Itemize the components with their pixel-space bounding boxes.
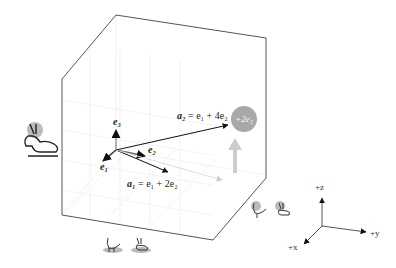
coordinate-axes <box>304 198 366 244</box>
a2-arrow <box>116 125 228 150</box>
a1-equation: a₁ = e₁ + 2e₂ <box>127 178 178 189</box>
axis-z-label: +z <box>315 182 324 192</box>
diagram-canvas <box>0 0 396 268</box>
e3-label: e₃ <box>113 116 121 127</box>
a1-arrow <box>116 150 168 172</box>
rabbit-icon <box>275 201 290 215</box>
axis-y-label: +y <box>370 228 380 238</box>
axis-x-label: +x <box>288 242 298 252</box>
chicken-icon <box>103 238 123 253</box>
a2-equation: a₂ = e₁ + 4e₂ <box>177 110 228 121</box>
chicken-icon <box>251 201 266 218</box>
lift-arrow-head <box>228 138 242 150</box>
e2-label: e₂ <box>148 144 156 155</box>
a2-extra-badge: +2e₃ <box>231 106 257 132</box>
rabbit-icon <box>25 122 58 156</box>
rabbit-icon <box>131 238 151 253</box>
e1-arrow <box>103 150 116 161</box>
e1-label: e₁ <box>100 161 108 172</box>
